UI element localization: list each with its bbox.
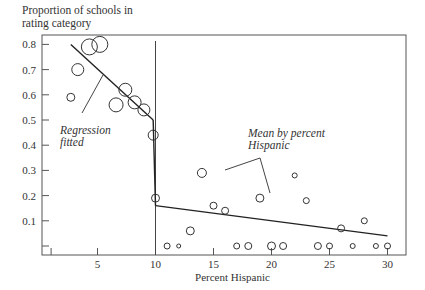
x-tick-label: 10 [150,258,162,270]
data-point [210,202,217,209]
data-point [222,207,229,214]
x-tick-label: 5 [95,258,101,270]
data-point [373,244,378,249]
data-point [197,168,206,177]
y-tick-label: 0.4 [22,139,36,151]
data-point [245,243,252,250]
data-point [303,198,309,204]
y-axis-ticks: 0.10.20.30.40.50.60.70.8 [22,38,49,246]
regression-line [71,44,388,236]
x-tick-label: 25 [324,258,336,270]
data-point [72,64,84,76]
data-point [280,243,287,250]
y-tick-label: 0.6 [22,89,36,101]
x-axis-ticks: 51015202530 [51,248,393,270]
regression-segment [71,44,153,120]
y-tick-label: 0.5 [22,114,36,126]
regression-annotation-line-2: fitted [60,136,111,148]
data-point [81,39,97,55]
data-point [350,244,355,249]
mean-annotation-line-1: Mean by percent [248,127,325,139]
data-point [234,243,240,249]
data-point [164,243,170,249]
regression-annotation-line-1: Regression [60,124,111,136]
data-point [177,244,181,248]
y-tick-label: 0.7 [22,64,36,76]
y-tick-label: 0.1 [22,215,36,227]
mean-leader-line-right [260,158,270,193]
regression-leader-line [82,75,103,113]
mean-leader-line-left [225,158,260,170]
data-point [138,104,150,116]
regression-annotation: Regression fitted [60,124,111,148]
mean-annotation: Mean by percent Hispanic [248,127,325,151]
mean-annotation-line-2: Hispanic [248,139,325,151]
data-point [109,98,123,112]
x-tick-label: 20 [266,258,278,270]
x-tick-label: 15 [208,258,220,270]
data-point [256,194,264,202]
data-point [186,227,194,235]
data-point [314,243,321,250]
data-points [67,36,391,250]
regression-segment [156,206,388,236]
data-point [292,173,297,178]
y-tick-label: 0.3 [22,164,36,176]
data-point [338,225,345,232]
y-tick-label: 0.8 [22,38,36,50]
y-tick-label: 0.2 [22,190,36,202]
data-point [67,93,75,101]
x-tick-label: 30 [382,258,394,270]
data-point [361,218,367,224]
data-point [92,36,108,52]
x-axis-label: Percent Hispanic [0,271,425,283]
